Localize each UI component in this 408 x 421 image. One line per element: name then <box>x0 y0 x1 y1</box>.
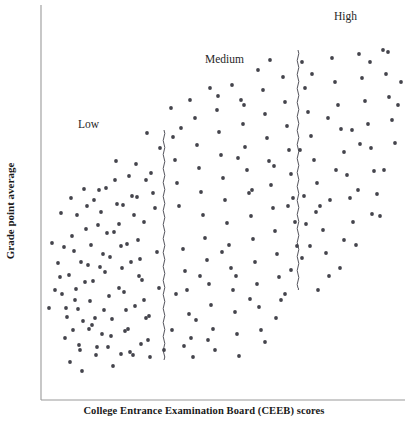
data-point <box>87 327 91 331</box>
data-point <box>360 76 364 80</box>
data-point <box>233 310 237 314</box>
data-point <box>142 298 146 302</box>
data-point <box>182 344 186 348</box>
data-point <box>206 338 210 342</box>
data-point <box>303 86 307 90</box>
data-point <box>281 75 285 79</box>
data-point <box>122 290 126 294</box>
data-point <box>235 332 239 336</box>
data-point <box>189 336 193 340</box>
data-point <box>158 146 162 150</box>
data-point <box>68 360 72 364</box>
data-point <box>47 306 51 310</box>
data-point <box>181 247 185 251</box>
data-point <box>132 213 136 217</box>
data-point <box>382 168 386 172</box>
data-point <box>227 243 231 247</box>
data-point <box>287 148 291 152</box>
data-point <box>279 298 283 302</box>
data-point <box>59 211 63 215</box>
data-point <box>142 220 146 224</box>
data-point <box>100 332 104 336</box>
data-point <box>179 126 183 130</box>
data-point <box>263 340 267 344</box>
data-point <box>195 143 199 147</box>
data-point <box>106 345 110 349</box>
data-point <box>93 316 97 320</box>
data-point <box>209 303 213 307</box>
data-point <box>249 214 253 218</box>
data-point <box>83 280 87 284</box>
data-point <box>157 286 161 290</box>
data-point <box>295 244 299 248</box>
data-point <box>220 250 224 254</box>
data-point <box>62 245 66 249</box>
data-point <box>144 178 148 182</box>
data-point <box>304 222 308 226</box>
data-point <box>217 130 221 134</box>
data-point <box>162 348 166 352</box>
data-point <box>70 234 74 238</box>
data-point <box>239 98 243 102</box>
data-point <box>203 236 207 240</box>
data-point <box>312 158 316 162</box>
data-point <box>188 98 192 102</box>
data-point <box>327 274 331 278</box>
data-point <box>113 178 117 182</box>
data-point <box>333 80 337 84</box>
data-point <box>251 237 255 241</box>
data-point <box>94 353 98 357</box>
data-point <box>108 255 112 259</box>
data-point <box>339 127 343 131</box>
data-point <box>81 319 85 323</box>
data-point <box>123 329 127 333</box>
data-point <box>174 292 178 296</box>
medium-high-divider <box>297 50 299 290</box>
data-point <box>145 131 149 135</box>
data-point <box>314 210 318 214</box>
data-point <box>56 261 60 265</box>
data-point <box>211 327 215 331</box>
data-point <box>72 249 76 253</box>
data-point <box>216 94 220 98</box>
data-point <box>230 83 234 87</box>
data-point <box>298 148 302 152</box>
data-point <box>119 352 123 356</box>
data-point <box>273 229 277 233</box>
data-point <box>308 244 312 248</box>
data-point <box>177 204 181 208</box>
data-point <box>117 222 121 226</box>
data-point <box>191 355 195 359</box>
data-point <box>293 220 297 224</box>
data-point <box>193 116 197 120</box>
data-point <box>300 256 304 260</box>
data-point <box>69 196 73 200</box>
data-point <box>119 244 123 248</box>
data-point <box>399 80 403 84</box>
data-point <box>241 122 245 126</box>
data-point <box>102 308 106 312</box>
data-point <box>368 60 372 64</box>
data-point <box>259 328 263 332</box>
data-point <box>63 336 67 340</box>
data-point <box>342 238 346 242</box>
data-point <box>194 318 198 322</box>
data-point <box>242 103 246 107</box>
data-point <box>60 292 64 296</box>
data-point <box>90 323 94 327</box>
data-point <box>229 266 233 270</box>
data-point <box>135 195 139 199</box>
data-point <box>272 164 276 168</box>
data-point <box>169 106 173 110</box>
data-point <box>257 305 261 309</box>
data-point <box>350 128 354 132</box>
data-point <box>139 342 143 346</box>
data-point <box>255 282 259 286</box>
data-point <box>50 241 54 245</box>
data-point <box>53 288 57 292</box>
data-point <box>73 298 77 302</box>
data-point <box>129 260 133 264</box>
data-point <box>147 314 151 318</box>
data-point <box>289 172 293 176</box>
data-point <box>283 100 287 104</box>
